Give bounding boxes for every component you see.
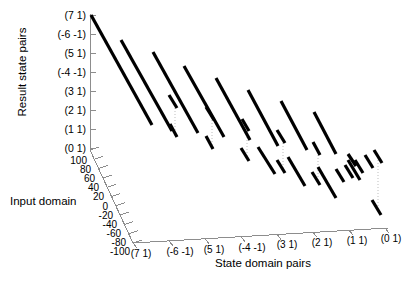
branch-dash <box>277 160 285 173</box>
x-tick-labels: (7 1) (-6 -1) (5 1) (-4 -1) (3 1) (2 1) … <box>131 233 402 259</box>
branch-dash <box>336 169 344 182</box>
z-tick-label: -100 <box>110 246 130 257</box>
plot-canvas: (7 1) (-6 -1) (5 1) (-4 -1) (3 1) (2 1) … <box>0 0 403 281</box>
axes-group <box>90 14 388 243</box>
secondary-trace-segment <box>318 167 336 198</box>
secondary-traces <box>258 147 360 198</box>
secondary-trace-segment <box>288 157 305 186</box>
branch-dash <box>277 130 285 143</box>
branch-dash <box>313 142 320 155</box>
z-axis-title: Input domain <box>10 195 77 207</box>
x-tick-label: (-6 -1) <box>166 246 193 257</box>
dotted-connectors <box>175 105 378 210</box>
main-trace-segment <box>91 15 152 125</box>
x-tick-label: (3 1) <box>277 239 298 250</box>
y-tick-label: (-4 -1) <box>57 66 86 78</box>
x-tick-label: (0 1) <box>381 233 402 244</box>
x-tick-label: (2 1) <box>312 237 333 248</box>
figure-3d-plot: (7 1) (-6 -1) (5 1) (-4 -1) (3 1) (2 1) … <box>0 0 403 281</box>
x-tick-label: (1 1) <box>347 235 368 246</box>
y-tick-labels: (7 1) (-6 -1) (5 1) (-4 -1) (3 1) (2 1) … <box>57 9 86 154</box>
branch-dash <box>372 200 381 215</box>
y-axis-ticks <box>90 15 96 148</box>
branch-dash <box>374 150 382 163</box>
secondary-trace-segment <box>258 147 275 174</box>
y-tick-label: (-6 -1) <box>57 28 86 40</box>
y-tick-label: (1 1) <box>64 123 86 135</box>
y-tick-label: (0 1) <box>64 142 86 154</box>
main-traces <box>91 15 336 154</box>
branch-dash <box>312 172 320 185</box>
z-tick-labels: 100 80 60 40 20 0 -20 -40 -60 -80 -100 <box>70 155 130 257</box>
y-tick-label: (5 1) <box>64 47 86 59</box>
x-tick-label: (-4 -1) <box>238 242 265 253</box>
branch-dash <box>365 155 373 168</box>
y-tick-label: (7 1) <box>64 9 86 21</box>
main-trace-segment <box>248 90 278 146</box>
x-tick-label: (5 1) <box>204 244 225 255</box>
y-axis-title: Result state pairs <box>16 17 28 127</box>
main-trace-segment <box>184 66 224 137</box>
x-tick-label: (7 1) <box>131 248 152 259</box>
x-axis-title: State domain pairs <box>215 257 311 269</box>
branch-dash <box>206 136 213 149</box>
branch-dash <box>169 95 177 108</box>
branch-dashes <box>169 95 382 215</box>
branch-dash <box>241 148 249 161</box>
y-tick-label: (2 1) <box>64 104 86 116</box>
y-tick-label: (3 1) <box>64 85 86 97</box>
